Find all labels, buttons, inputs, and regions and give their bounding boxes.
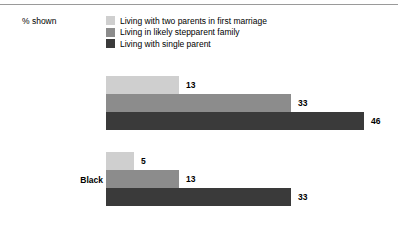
bar-value-label: 5 bbox=[141, 152, 146, 170]
bar-row: 13 bbox=[106, 76, 219, 94]
bar-row: 33 bbox=[106, 94, 331, 112]
bar-value-label: 13 bbox=[186, 170, 195, 188]
bar-segment bbox=[106, 76, 179, 94]
bar-row: 5 bbox=[106, 152, 174, 170]
bar-segment bbox=[106, 188, 291, 206]
bar-segment bbox=[106, 112, 364, 130]
bar-row: 33 bbox=[106, 188, 331, 206]
bar-value-label: 33 bbox=[298, 188, 307, 206]
bar-value-label: 33 bbox=[298, 94, 307, 112]
bar-chart: % shown Living with two parents in first… bbox=[0, 0, 398, 233]
bar-segment bbox=[106, 94, 291, 112]
bar-segment bbox=[106, 170, 179, 188]
bar-group-black: Black 13 33 46 bbox=[0, 76, 398, 132]
bar-value-label: 13 bbox=[186, 76, 195, 94]
bar-row: 46 bbox=[106, 112, 398, 130]
bar-value-label: 46 bbox=[371, 112, 380, 130]
bar-group-white: White 5 13 33 bbox=[0, 152, 398, 208]
bar-segment bbox=[106, 152, 134, 170]
bar-row: 13 bbox=[106, 170, 219, 188]
bar-groups: Black 13 33 46 White 5 13 bbox=[0, 0, 398, 233]
